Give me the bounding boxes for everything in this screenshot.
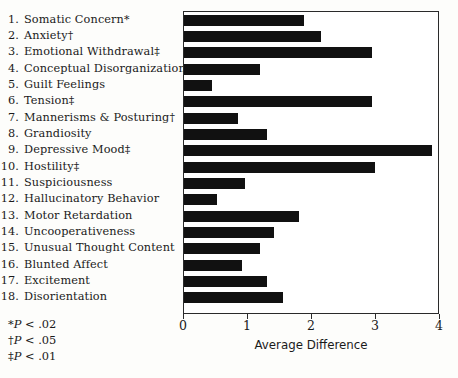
bar-row	[184, 126, 438, 142]
x-tick-label: 3	[371, 318, 379, 333]
significance-marker: ‡	[69, 94, 75, 107]
bar-row	[184, 208, 438, 224]
category-label-text: Uncooperativeness	[24, 225, 135, 238]
bar	[184, 243, 260, 254]
category-label-text: Motor Retardation	[24, 209, 132, 222]
significance-marker: ‡	[154, 45, 160, 58]
bar	[184, 211, 299, 222]
footnote-threshold: < .01	[21, 349, 56, 363]
bar-row	[184, 110, 438, 126]
bar	[184, 145, 432, 156]
category-label-row: 14.Uncooperativeness	[0, 223, 178, 239]
bar-row	[184, 192, 438, 208]
category-index: 15.	[0, 241, 24, 254]
category-label-row: 1.Somatic Concern*	[0, 11, 178, 27]
bar-row	[184, 94, 438, 110]
category-label-text: Emotional Withdrawal	[24, 45, 154, 58]
category-index: 7.	[0, 111, 24, 124]
category-index: 16.	[0, 258, 24, 271]
x-tick-label: 1	[243, 318, 251, 333]
bar	[184, 227, 274, 238]
footnote-threshold: < .05	[21, 333, 56, 347]
category-label-text: Somatic Concern	[24, 13, 124, 26]
bar-row	[184, 175, 438, 191]
bar-row	[184, 290, 438, 306]
bar	[184, 15, 304, 26]
category-index: 6.	[0, 94, 24, 107]
category-label-row: 17.Excitement	[0, 272, 178, 288]
bar	[184, 80, 212, 91]
bar	[184, 194, 217, 205]
bar	[184, 178, 245, 189]
category-label-row: 7.Mannerisms & Posturing†	[0, 109, 178, 125]
x-axis-title: Average Difference	[183, 338, 439, 352]
bar	[184, 31, 321, 42]
bar	[184, 276, 267, 287]
category-index: 12.	[0, 192, 24, 205]
category-label-text: Depressive Mood	[24, 143, 125, 156]
category-label-text: Guilt Feelings	[24, 78, 105, 91]
category-index: 13.	[0, 209, 24, 222]
chart-figure: 1.Somatic Concern*2.Anxiety†3.Emotional …	[0, 0, 458, 378]
x-tick-label: 0	[179, 318, 187, 333]
bar-row	[184, 45, 438, 61]
bar-row	[184, 12, 438, 28]
category-label-row: 5.Guilt Feelings	[0, 76, 178, 92]
bar-row	[184, 61, 438, 77]
category-label-row: 13.Motor Retardation	[0, 207, 178, 223]
category-label-row: 16.Blunted Affect	[0, 256, 178, 272]
footnote: †P < .05	[8, 332, 56, 348]
bar-row	[184, 28, 438, 44]
category-label-text: Excitement	[24, 274, 90, 287]
x-axis: 01234	[183, 314, 439, 334]
bar	[184, 47, 372, 58]
category-label-list: 1.Somatic Concern*2.Anxiety†3.Emotional …	[0, 11, 178, 305]
bar-row	[184, 159, 438, 175]
significance-marker: ‡	[125, 143, 131, 156]
category-label-row: 15.Unusual Thought Content	[0, 240, 178, 256]
category-label-row: 2.Anxiety†	[0, 27, 178, 43]
category-index: 1.	[0, 13, 24, 26]
category-label-text: Tension	[24, 94, 69, 107]
significance-marker: †	[169, 111, 175, 124]
bar-row	[184, 241, 438, 257]
x-tick-label: 4	[435, 318, 443, 333]
category-label-row: 3.Emotional Withdrawal‡	[0, 44, 178, 60]
bar	[184, 292, 283, 303]
bar	[184, 64, 260, 75]
bar-row	[184, 143, 438, 159]
category-index: 4.	[0, 62, 24, 75]
category-label-text: Blunted Affect	[24, 258, 108, 271]
category-index: 11.	[0, 176, 24, 189]
category-label-row: 6.Tension‡	[0, 93, 178, 109]
category-index: 18.	[0, 290, 24, 303]
footnote: *P < .02	[8, 316, 56, 332]
category-index: 2.	[0, 29, 24, 42]
significance-marker: †	[68, 29, 74, 42]
category-index: 3.	[0, 45, 24, 58]
category-index: 5.	[0, 78, 24, 91]
bar-row	[184, 257, 438, 273]
category-label-text: Hostility	[24, 160, 74, 173]
bar-row	[184, 273, 438, 289]
category-index: 10.	[0, 160, 24, 173]
category-label-row: 12.Hallucinatory Behavior	[0, 191, 178, 207]
category-label-text: Disorientation	[24, 290, 107, 303]
category-label-row: 10.Hostility‡	[0, 158, 178, 174]
significance-marker: ‡	[74, 160, 80, 173]
category-label-row: 4.Conceptual Disorganization	[0, 60, 178, 76]
category-label-text: Grandiosity	[24, 127, 92, 140]
footnote: ‡P < .01	[8, 348, 56, 364]
bar	[184, 129, 267, 140]
category-label-text: Conceptual Disorganization	[24, 62, 186, 75]
significance-marker: *	[124, 13, 130, 26]
category-index: 9.	[0, 143, 24, 156]
category-index: 14.	[0, 225, 24, 238]
footnote-threshold: < .02	[21, 317, 56, 331]
plot-area	[183, 11, 439, 314]
bar-row	[184, 77, 438, 93]
category-index: 17.	[0, 274, 24, 287]
category-label-text: Unusual Thought Content	[24, 241, 175, 254]
category-label-text: Mannerisms & Posturing	[24, 111, 169, 124]
category-label-row: 18.Disorientation	[0, 289, 178, 305]
